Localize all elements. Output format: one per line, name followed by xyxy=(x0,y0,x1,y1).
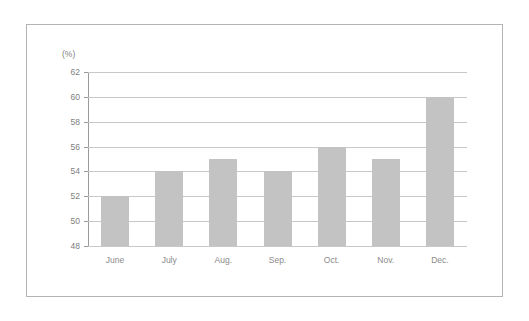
gridline xyxy=(88,72,467,73)
gridline xyxy=(88,147,467,148)
y-axis-label: 50 xyxy=(54,217,80,226)
y-axis-label: 54 xyxy=(54,167,80,176)
x-axis-label: July xyxy=(139,256,199,265)
x-axis-label: Oct. xyxy=(302,256,362,265)
plot-area xyxy=(88,72,467,246)
y-axis-tick xyxy=(84,221,88,222)
y-axis-tick xyxy=(84,246,88,247)
bar xyxy=(264,171,292,246)
y-axis-tick xyxy=(84,171,88,172)
y-axis-label: 48 xyxy=(54,242,80,251)
y-axis-tick xyxy=(84,72,88,73)
bar xyxy=(372,159,400,246)
gridline xyxy=(88,246,467,247)
y-axis-label: 58 xyxy=(54,118,80,127)
y-axis-tick xyxy=(84,97,88,98)
bar xyxy=(155,171,183,246)
bar xyxy=(426,97,454,246)
y-axis-label: 56 xyxy=(54,143,80,152)
y-axis-tick xyxy=(84,122,88,123)
gridline xyxy=(88,122,467,123)
x-axis-label: June xyxy=(85,256,145,265)
bar xyxy=(209,159,237,246)
x-axis-label: Nov. xyxy=(356,256,416,265)
y-axis-label: 60 xyxy=(54,93,80,102)
bar xyxy=(101,196,129,246)
y-axis-tick xyxy=(84,147,88,148)
y-axis-tick xyxy=(84,196,88,197)
x-axis-label: Dec. xyxy=(410,256,470,265)
bar xyxy=(318,147,346,246)
y-axis-label: 52 xyxy=(54,192,80,201)
x-axis-label: Aug. xyxy=(193,256,253,265)
x-axis-label: Sep. xyxy=(248,256,308,265)
gridline xyxy=(88,97,467,98)
y-axis-unit-label: (%) xyxy=(62,50,75,59)
y-axis-label: 62 xyxy=(54,68,80,77)
